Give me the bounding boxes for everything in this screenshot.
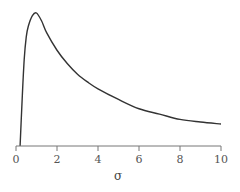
x-tick-label: 0: [13, 153, 20, 166]
x-tick-label: 10: [214, 153, 228, 166]
x-axis-label: σ: [114, 169, 122, 183]
x-tick-label: 4: [95, 153, 102, 166]
x-tick-label: 6: [136, 153, 143, 166]
x-axis: 0246810: [13, 146, 229, 166]
x-tick-label: 2: [54, 153, 61, 166]
density-curve: [20, 13, 221, 146]
density-chart: 0246810 σ: [0, 0, 240, 192]
x-tick-label: 8: [177, 153, 184, 166]
